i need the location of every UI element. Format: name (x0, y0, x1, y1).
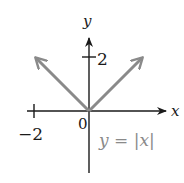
y-axis-label: y (82, 12, 92, 30)
x-axis-label: x (171, 102, 180, 120)
x-tick-label-minus-2: −2 (18, 124, 43, 144)
y-tick-label-2: 2 (97, 49, 108, 69)
abs-value-graph: y x 2 −2 0 y = |x| (0, 0, 184, 183)
curve-left-branch (36, 58, 89, 111)
origin-label: 0 (78, 115, 88, 133)
equation-label: y = |x| (98, 130, 155, 150)
